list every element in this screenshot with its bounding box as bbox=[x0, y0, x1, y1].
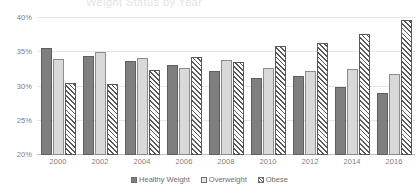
x-axis-tick-label: 2010 bbox=[247, 157, 289, 166]
bar[interactable] bbox=[167, 65, 178, 155]
legend-label: Overweight bbox=[209, 175, 247, 184]
bar-group bbox=[205, 18, 247, 155]
x-axis-tick-label: 2012 bbox=[289, 157, 331, 166]
bar[interactable] bbox=[125, 61, 136, 155]
legend-swatch-icon bbox=[131, 177, 137, 183]
bar[interactable] bbox=[65, 83, 76, 155]
bar-group bbox=[331, 18, 373, 155]
x-axis-tick-label: 2004 bbox=[121, 157, 163, 166]
legend-item[interactable]: Overweight bbox=[201, 175, 247, 184]
x-axis-tick-label: 2000 bbox=[37, 157, 79, 166]
y-axis-tick-label: 35% bbox=[17, 47, 32, 56]
bar[interactable] bbox=[317, 43, 328, 155]
bar-group bbox=[37, 18, 79, 155]
bar[interactable] bbox=[263, 68, 274, 155]
x-axis-tick-label: 2008 bbox=[205, 157, 247, 166]
chart-legend: Healthy WeightOverweightObese bbox=[0, 175, 419, 184]
legend-label: Obese bbox=[266, 175, 288, 184]
bar[interactable] bbox=[389, 74, 400, 156]
bar[interactable] bbox=[233, 62, 244, 155]
bar[interactable] bbox=[191, 57, 202, 155]
bar[interactable] bbox=[377, 93, 388, 155]
y-axis-tick-label: 40% bbox=[17, 13, 32, 22]
bar[interactable] bbox=[359, 34, 370, 155]
legend-swatch-icon bbox=[258, 177, 264, 183]
bar[interactable] bbox=[83, 56, 94, 155]
bar-group bbox=[79, 18, 121, 155]
y-axis-tick-label: 20% bbox=[17, 150, 32, 159]
bar[interactable] bbox=[107, 84, 118, 155]
plot-area: 40%35%30%25%20% bbox=[37, 18, 415, 155]
bar[interactable] bbox=[335, 87, 346, 155]
bar[interactable] bbox=[305, 71, 316, 155]
y-axis-tick-label: 25% bbox=[17, 115, 32, 124]
chart-title-remnant: Weight Status by Year bbox=[0, 0, 419, 9]
chart-title-text: Weight Status by Year bbox=[86, 0, 419, 8]
x-axis-tick-label: 2016 bbox=[373, 157, 415, 166]
bar[interactable] bbox=[401, 20, 412, 155]
bar[interactable] bbox=[53, 59, 64, 155]
y-axis-tick-label: 30% bbox=[17, 81, 32, 90]
bar[interactable] bbox=[95, 52, 106, 155]
x-axis-tick-label: 2006 bbox=[163, 157, 205, 166]
legend-item[interactable]: Obese bbox=[258, 175, 288, 184]
bar[interactable] bbox=[179, 68, 190, 155]
bar[interactable] bbox=[275, 46, 286, 155]
bar-group bbox=[247, 18, 289, 155]
bar[interactable] bbox=[209, 71, 220, 155]
x-axis-tick-label: 2014 bbox=[331, 157, 373, 166]
bar-chart: Weight Status by Year 40%35%30%25%20% 20… bbox=[0, 0, 419, 196]
bar-group bbox=[121, 18, 163, 155]
legend-label: Healthy Weight bbox=[139, 175, 190, 184]
legend-item[interactable]: Healthy Weight bbox=[131, 175, 190, 184]
bar[interactable] bbox=[149, 70, 160, 155]
bar[interactable] bbox=[41, 48, 52, 155]
bar[interactable] bbox=[251, 78, 262, 155]
bar-group bbox=[289, 18, 331, 155]
bar-group bbox=[373, 18, 415, 155]
bar[interactable] bbox=[293, 76, 304, 155]
legend-swatch-icon bbox=[201, 177, 207, 183]
bar-groups bbox=[37, 18, 415, 155]
bar[interactable] bbox=[137, 58, 148, 155]
bar[interactable] bbox=[221, 60, 232, 155]
bar-group bbox=[163, 18, 205, 155]
x-axis-labels: 200020022004200620082010201220142016 bbox=[37, 157, 415, 166]
x-axis-tick-label: 2002 bbox=[79, 157, 121, 166]
bar[interactable] bbox=[347, 69, 358, 155]
